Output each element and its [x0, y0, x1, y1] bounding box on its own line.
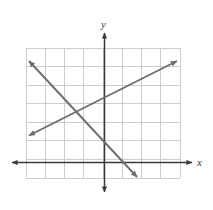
coordinate-plane-figure: y x	[0, 0, 213, 210]
y-axis-label: y	[100, 18, 106, 30]
x-axis-label: x	[196, 156, 202, 168]
coordinate-plane-svg: y x	[0, 0, 213, 210]
